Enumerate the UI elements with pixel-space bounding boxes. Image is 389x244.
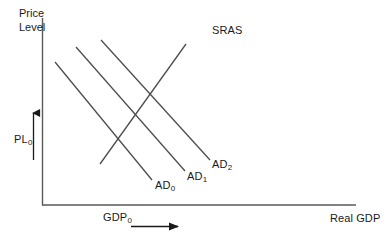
curve-label-ad2-text: AD [212, 158, 227, 170]
curve-ad1 [76, 47, 185, 171]
curve-label-ad1-subscript: 1 [203, 175, 208, 184]
price-level-marker-text: PL [14, 133, 28, 145]
price-level-subscript: 0 [28, 138, 33, 147]
gdp-marker-text: GDP [103, 211, 127, 223]
price-level-marker: PL0 [14, 133, 32, 147]
gdp-marker: GDP0 [103, 211, 132, 225]
y-axis-title-line1: Price [19, 6, 45, 20]
y-axis-title-line2: Level [19, 20, 45, 34]
curve-label-ad0-text: AD [155, 179, 170, 191]
ad-sras-diagram: Price Level Real GDP PL0 GDP0 AD0 AD1 AD… [0, 0, 389, 244]
curve-label-sras: SRAS [212, 24, 242, 37]
curve-sras [100, 44, 186, 164]
curve-label-sras-text: SRAS [212, 24, 242, 36]
curve-label-ad0: AD0 [155, 179, 175, 193]
curve-ad2 [101, 40, 210, 160]
diagram-canvas [0, 0, 389, 244]
curve-label-ad2-subscript: 2 [228, 163, 233, 172]
y-axis-title: Price Level [19, 6, 45, 34]
curve-label-ad0-subscript: 0 [171, 184, 176, 193]
curve-label-ad1: AD1 [187, 170, 207, 184]
curve-label-ad2: AD2 [212, 158, 232, 172]
curve-label-ad1-text: AD [187, 170, 202, 182]
x-axis-title: Real GDP [330, 212, 380, 225]
gdp-subscript: 0 [127, 216, 132, 225]
